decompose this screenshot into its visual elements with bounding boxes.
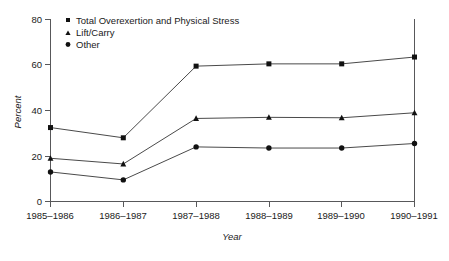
legend-item-2: Other xyxy=(66,39,100,50)
series-0 xyxy=(48,55,417,141)
legend-item-1: Lift/Carry xyxy=(65,27,114,38)
square-marker-icon xyxy=(66,18,70,22)
y-tick-label-80: 80 xyxy=(31,14,42,25)
y-tick-label-0: 0 xyxy=(37,196,42,207)
data-point xyxy=(48,169,53,174)
x-tick-label-5: 1990–1991 xyxy=(390,210,438,221)
legend: Total Overexertion and Physical Stress L… xyxy=(65,15,239,50)
y-axis-title: Percent xyxy=(12,95,23,128)
series-line-1 xyxy=(51,113,415,164)
y-tick-label-60: 60 xyxy=(31,59,42,70)
data-point xyxy=(121,135,126,140)
circle-marker-icon xyxy=(66,42,71,47)
series-line-0 xyxy=(51,57,415,138)
data-point xyxy=(266,61,271,66)
data-point xyxy=(412,55,417,60)
y-tick-label-40: 40 xyxy=(31,105,42,116)
x-tick-label-4: 1989–1990 xyxy=(317,210,365,221)
legend-label-2: Other xyxy=(76,39,100,50)
data-point xyxy=(266,145,271,150)
x-ticks xyxy=(51,202,415,208)
data-point xyxy=(194,64,199,69)
data-point xyxy=(193,144,198,149)
legend-label-1: Lift/Carry xyxy=(76,27,115,38)
triangle-marker-icon xyxy=(65,31,70,36)
data-point xyxy=(121,177,126,182)
legend-item-0: Total Overexertion and Physical Stress xyxy=(66,15,239,26)
series-line-2 xyxy=(51,143,415,179)
data-point xyxy=(412,141,417,146)
axis-group xyxy=(51,19,415,202)
series-1 xyxy=(48,110,418,167)
data-point xyxy=(339,145,344,150)
legend-label-0: Total Overexertion and Physical Stress xyxy=(76,15,239,26)
data-point xyxy=(48,125,53,130)
y-tick-label-20: 20 xyxy=(31,151,42,162)
x-tick-label-0: 1985–1986 xyxy=(26,210,74,221)
x-axis-title: Year xyxy=(222,231,242,242)
line-chart: 80 60 40 20 0 Percent 1985–1986 1986–198… xyxy=(0,0,449,261)
x-tick-label-3: 1988–1989 xyxy=(245,210,293,221)
x-tick-label-1: 1986–1987 xyxy=(99,210,147,221)
series-2 xyxy=(48,141,417,183)
data-point xyxy=(339,61,344,66)
series-layer xyxy=(48,55,418,183)
figure-container: 80 60 40 20 0 Percent 1985–1986 1986–198… xyxy=(0,0,449,261)
x-tick-label-2: 1987–1988 xyxy=(172,210,220,221)
